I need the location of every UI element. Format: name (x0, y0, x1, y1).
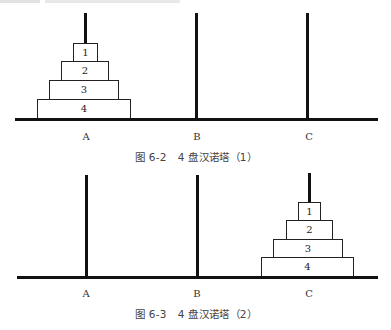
figure-caption: 图 6-3 4 盘汉诺塔（2） (135, 306, 257, 321)
disk-4: 4 (261, 257, 354, 277)
hanoi-figure-2: 1 2 3 4 A B C 图 6-3 4 盘汉诺塔（2） (0, 0, 391, 330)
peg-a-label: A (82, 288, 89, 299)
disk-2: 2 (286, 220, 333, 240)
peg-c-label: C (305, 288, 313, 299)
peg-b-label: B (193, 288, 200, 299)
disk-1: 1 (298, 202, 321, 221)
peg-b-pole (196, 175, 199, 278)
base-line (17, 276, 378, 279)
peg-a-pole (85, 175, 88, 278)
disk-3: 3 (273, 239, 343, 258)
